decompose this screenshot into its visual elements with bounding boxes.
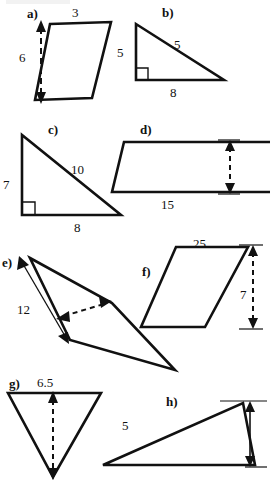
- figure-f-arrow-down: [248, 318, 258, 329]
- figure-b-triangle: [136, 24, 224, 80]
- figure-a-parallelogram: [35, 22, 111, 100]
- figure-h-drawing: [95, 370, 270, 481]
- figure-e-side-arrow-start: [17, 256, 29, 270]
- figure-d-parallelogram: [112, 142, 270, 192]
- figure-g-arrow-down: [48, 468, 58, 480]
- figure-h-triangle: [103, 403, 255, 465]
- figure-b-left-label: 5: [117, 46, 124, 59]
- figure-f-parallelogram: [141, 247, 248, 327]
- figure-d-drawing: [110, 115, 270, 225]
- figure-a-arrow-up: [36, 20, 46, 32]
- figure-f-drawing: [135, 235, 270, 365]
- worksheet-canvas: a) 3 6 b) 5 5 8 c) 7 10 8 d) 5 15 e) 12 …: [0, 0, 270, 481]
- figure-h-arrow-up: [245, 401, 255, 412]
- figure-a-drawing: [0, 0, 135, 110]
- figure-c-triangle: [22, 135, 121, 215]
- figure-b-drawing: [130, 0, 270, 110]
- figure-g-triangle: [8, 393, 101, 477]
